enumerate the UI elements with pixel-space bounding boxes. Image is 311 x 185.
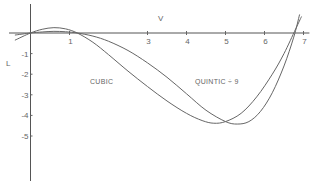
x-tick-label: 4 [185,37,190,46]
x-tick-label: 6 [263,37,268,46]
x-tick-label: 1 [68,37,73,46]
y-tick-label: -5 [21,132,29,141]
y-tick-label: -1 [21,50,29,59]
y-tick-label: -3 [21,91,29,100]
y-tick-label: -4 [21,111,29,120]
y-tick-label: -2 [21,70,29,79]
axes [9,4,309,181]
x-tick-label: 5 [224,37,229,46]
x-axis-label: V [158,14,164,23]
y-axis-label: L [6,59,11,68]
annotation-quintic: QUINTIC ÷ 9 [195,78,239,86]
chart: 134567-1-2-3-4-5 V L CUBIC QUINTIC ÷ 9 [0,0,311,185]
curves [15,14,302,124]
series-quintic-line [15,14,300,124]
annotation-cubic: CUBIC [90,78,113,85]
x-tick-label: 7 [302,37,307,46]
x-tick-label: 3 [146,37,151,46]
